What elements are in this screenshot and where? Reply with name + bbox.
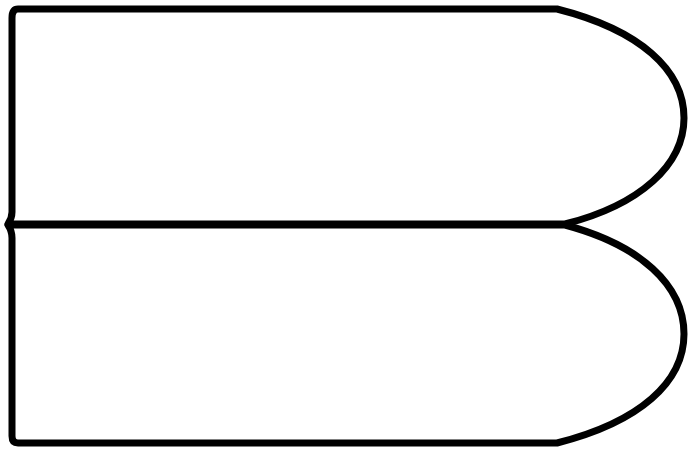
bottom-bullet-shape [8,225,684,443]
top-bullet-shape [8,9,684,224]
diagram-canvas [0,0,690,453]
diagram-svg [0,0,690,453]
